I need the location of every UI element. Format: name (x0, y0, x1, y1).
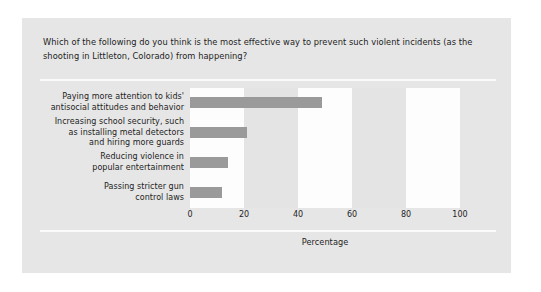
category-label-line: control laws (24, 193, 184, 204)
bar (190, 97, 322, 108)
bar-row: Paying more attention to kids'antisocial… (190, 88, 460, 118)
bar (190, 127, 247, 138)
category-label-line: Reducing violence in (24, 152, 184, 163)
category-label-line: Paying more attention to kids' (24, 92, 184, 103)
bar-row: Increasing school security, suchas insta… (190, 118, 460, 148)
category-label: Increasing school security, suchas insta… (24, 117, 184, 149)
category-label-line: antisocial attitudes and behavior (24, 103, 184, 114)
axis-divider (40, 230, 496, 232)
category-label-line: popular entertainment (24, 163, 184, 174)
x-tick-label: 100 (452, 210, 467, 219)
plot-area: Paying more attention to kids'antisocial… (190, 88, 460, 208)
bar-row: Passing stricter guncontrol laws (190, 178, 460, 208)
x-tick-label: 20 (239, 210, 249, 219)
category-label: Paying more attention to kids'antisocial… (24, 92, 184, 113)
category-label-line: as installing metal detectors (24, 128, 184, 139)
category-label-line: Passing stricter gun (24, 182, 184, 193)
x-tick-label: 40 (293, 210, 303, 219)
bar-row: Reducing violence inpopular entertainmen… (190, 148, 460, 178)
chart-question-title: Which of the following do you think is t… (43, 36, 495, 63)
x-tick-label: 80 (401, 210, 411, 219)
x-axis-label: Percentage (190, 237, 460, 247)
bar (190, 157, 228, 168)
bar (190, 187, 222, 198)
chart-panel: Which of the following do you think is t… (22, 18, 511, 273)
category-label: Reducing violence inpopular entertainmen… (24, 152, 184, 173)
x-tick-label: 0 (187, 210, 192, 219)
x-axis-ticks: 020406080100 (190, 210, 460, 224)
category-label-line: Increasing school security, such (24, 117, 184, 128)
category-label: Passing stricter guncontrol laws (24, 182, 184, 203)
category-label-line: and hiring more guards (24, 138, 184, 149)
title-divider (40, 79, 496, 81)
x-tick-label: 60 (347, 210, 357, 219)
chart-figure: Which of the following do you think is t… (0, 0, 541, 292)
